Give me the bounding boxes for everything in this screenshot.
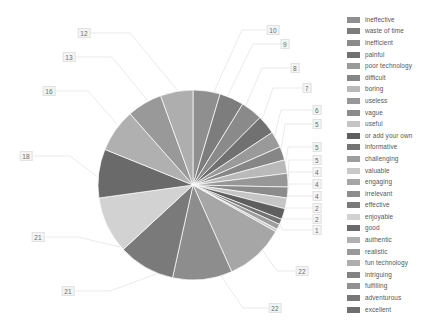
legend-swatch-icon [347,75,360,81]
legend-item[interactable]: realistic [347,246,440,258]
legend-item[interactable]: adventurous [347,292,440,304]
slice-value-label: 5 [313,119,322,129]
leader-line [213,30,273,94]
legend-swatch-icon [347,28,360,34]
legend-item[interactable]: ineffective [347,14,440,26]
legend-item-label: painful [365,51,385,59]
legend-item[interactable]: good [347,223,440,235]
leader-line [26,156,99,178]
legend-item-label: vague [365,109,383,117]
slice-value-label: 6 [313,105,322,115]
legend-item-label: poor technology [365,62,412,70]
legend-item-label: informative [365,143,397,151]
legend-swatch-icon [347,225,360,231]
legend-item[interactable]: inefficient [347,37,440,49]
legend-item[interactable]: enjoyable [347,211,440,223]
legend-item[interactable]: difficult [347,72,440,84]
legend-swatch-icon [347,237,360,243]
legend-item[interactable]: vague [347,107,440,119]
legend-item[interactable]: engaging [347,176,440,188]
legend-item[interactable]: informative [347,142,440,154]
slice-value-label: 8 [291,63,300,73]
legend-item[interactable]: painful [347,49,440,61]
legend-item[interactable]: poor technology [347,60,440,72]
leader-line [84,33,178,91]
legend-swatch-icon [347,202,360,208]
slice-value-label: 2 [313,214,322,224]
pie-chart-page: 1098765554442212222212118161312 ineffect… [0,0,440,333]
legend-item-label: fulfilling [365,282,387,290]
legend-item-label: boring [365,85,383,93]
slice-value-label: 12 [78,28,91,38]
legend-item-label: good [365,224,380,232]
leader-line [272,110,317,146]
legend-swatch-icon [347,17,360,23]
slice-value-label: 13 [63,52,76,62]
legend-item[interactable]: fulfilling [347,281,440,293]
legend-item[interactable]: valuable [347,165,440,177]
legend-item-label: waste of time [365,27,404,35]
legend-swatch-icon [347,110,360,116]
legend-swatch-icon [347,144,360,150]
legend-swatch-icon [347,121,360,127]
legend: ineffectivewaste of timeinefficientpainf… [347,14,440,315]
leader-line [280,124,317,157]
legend-swatch-icon [347,307,360,313]
legend-item-label: enjoyable [365,213,393,221]
legend-swatch-icon [347,156,360,162]
slice-value-label: 9 [281,39,290,49]
slice-value-label: 21 [62,286,75,296]
legend-item[interactable]: authentic [347,234,440,246]
slice-value-label: 22 [269,303,282,313]
slice-value-label: 2 [313,203,322,213]
legend-swatch-icon [347,214,360,220]
legend-item[interactable]: effective [347,200,440,212]
legend-item[interactable]: excellent [347,304,440,316]
legend-swatch-icon [347,191,360,197]
legend-item[interactable]: waste of time [347,26,440,38]
legend-swatch-icon [347,86,360,92]
legend-item[interactable]: fun technology [347,257,440,269]
legend-item[interactable]: useful [347,118,440,130]
legend-swatch-icon [347,260,360,266]
pie-chart-svg [0,0,345,333]
legend-item-label: challenging [365,155,398,163]
legend-swatch-icon [347,249,360,255]
legend-item-label: or add your own [365,132,412,140]
legend-item[interactable]: or add your own [347,130,440,142]
legend-item[interactable]: irrelevant [347,188,440,200]
legend-item[interactable]: boring [347,84,440,96]
legend-item-label: valuable [365,167,390,175]
legend-swatch-icon [347,63,360,69]
legend-swatch-icon [347,283,360,289]
legend-swatch-icon [347,52,360,58]
legend-item-label: useful [365,120,383,128]
slice-value-label: 4 [313,191,322,201]
slice-value-label: 4 [313,167,322,177]
legend-swatch-icon [347,272,360,278]
slice-value-label: 22 [296,266,309,276]
legend-item[interactable]: intriguing [347,269,440,281]
leader-line [221,276,275,308]
legend-item-label: intriguing [365,271,392,279]
leader-line [243,68,295,112]
leader-line [226,44,285,99]
leader-line [69,57,147,100]
slice-value-label: 5 [313,142,322,152]
chart-area: 1098765554442212222212118161312 [0,0,345,333]
leader-line [280,210,317,219]
legend-swatch-icon [347,168,360,174]
legend-swatch-icon [347,179,360,185]
legend-item[interactable]: useless [347,95,440,107]
slice-value-label: 1 [313,225,322,235]
slice-value-label: 7 [303,83,312,93]
leader-line [68,273,159,291]
legend-item-label: ineffective [365,16,395,24]
leader-line [49,91,117,124]
legend-item-label: engaging [365,178,392,186]
slice-value-label: 21 [32,232,45,242]
legend-item-label: useless [365,97,387,105]
legend-item[interactable]: challenging [347,153,440,165]
legend-item-label: authentic [365,236,392,244]
pie-slice-group [98,90,288,280]
